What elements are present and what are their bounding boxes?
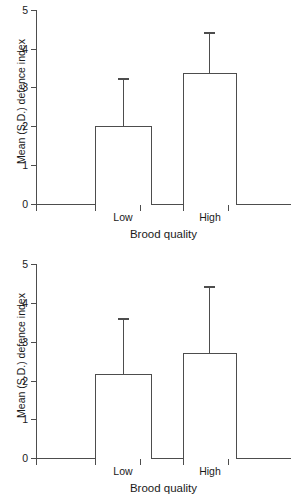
figure-container: 5 4 3 2 1 0 Low High Mean (S.D.) d [0, 0, 302, 501]
y-tick-4-top [31, 49, 36, 50]
error-bar-line-low-bottom [123, 318, 124, 374]
y-axis-title-top: Mean (S.D.) defence index [16, 17, 27, 187]
y-tick-label-5-top: 5 [6, 5, 28, 16]
y-axis-title-bottom: Mean (S.D.) defence index [16, 271, 27, 441]
error-bar-cap-high-bottom [204, 286, 215, 288]
x-tick-2-bottom [140, 459, 141, 465]
x-axis-line-bottom [36, 458, 291, 459]
y-tick-2-top [31, 126, 36, 127]
bar-low-bottom [95, 374, 152, 459]
y-axis-line-bottom [36, 264, 37, 458]
chart-panel-top: 5 4 3 2 1 0 Low High Mean (S.D.) d [0, 0, 302, 250]
x-tick-0-top [36, 205, 37, 211]
y-tick-1-top [31, 165, 36, 166]
x-category-label-low-bottom: Low [88, 466, 158, 477]
x-tick-2-top [140, 205, 141, 211]
bar-low-top [95, 126, 152, 205]
x-tick-3-top [183, 205, 184, 211]
error-bar-cap-high-top [204, 32, 215, 34]
y-tick-3-bottom [31, 342, 36, 343]
error-bar-cap-low-top [118, 78, 129, 80]
x-category-label-high-top: High [175, 212, 245, 223]
y-tick-5-bottom [31, 264, 36, 265]
x-axis-title-top: Brood quality [36, 228, 291, 240]
error-bar-line-high-top [209, 32, 210, 73]
x-tick-1-bottom [95, 459, 96, 465]
plot-area-top: 5 4 3 2 1 0 Low High Mean (S.D.) d [0, 0, 302, 250]
y-tick-label-0-bottom: 0 [6, 453, 28, 464]
x-axis-line-top [36, 204, 291, 205]
error-bar-cap-low-bottom [118, 318, 129, 320]
error-bar-line-low-top [123, 78, 124, 126]
y-axis-line-top [36, 10, 37, 204]
x-category-label-high-bottom: High [175, 466, 245, 477]
bar-high-top [183, 73, 237, 205]
y-tick-3-top [31, 87, 36, 88]
bar-high-bottom [183, 353, 237, 459]
x-tick-0-bottom [36, 459, 37, 465]
y-tick-label-0-top: 0 [6, 199, 28, 210]
y-tick-label-5-bottom: 5 [6, 259, 28, 270]
plot-area-bottom: 5 4 3 2 1 0 Low High Mean (S.D.) d [0, 251, 302, 501]
y-tick-2-bottom [31, 381, 36, 382]
x-tick-4-top [228, 205, 229, 211]
x-tick-1-top [95, 205, 96, 211]
y-tick-4-bottom [31, 303, 36, 304]
chart-panel-bottom: 5 4 3 2 1 0 Low High Mean (S.D.) d [0, 251, 302, 501]
x-tick-3-bottom [183, 459, 184, 465]
y-tick-1-bottom [31, 419, 36, 420]
error-bar-line-high-bottom [209, 286, 210, 353]
x-category-label-low-top: Low [88, 212, 158, 223]
x-axis-title-bottom: Brood quality [36, 482, 291, 494]
y-tick-5-top [31, 10, 36, 11]
x-tick-4-bottom [228, 459, 229, 465]
